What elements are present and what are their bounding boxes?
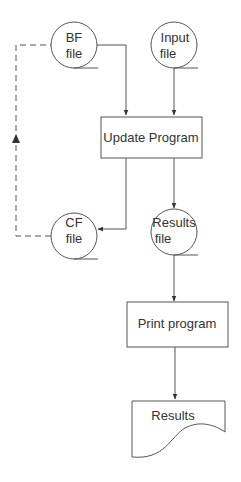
node-results-file: Results file: [151, 209, 198, 255]
edge-bf-to-update: [97, 45, 126, 115]
node-input-file: Input file: [151, 22, 198, 68]
node-print-program-label: Print program: [138, 316, 217, 331]
node-update-program: Update Program: [101, 117, 202, 158]
node-bf-file-line2: file: [66, 46, 83, 61]
flowchart-canvas: BF file Input file Update Program CF fil…: [0, 0, 241, 482]
node-results-file-line1: Results: [152, 215, 196, 230]
node-update-program-label: Update Program: [103, 130, 198, 145]
edge-cf-to-bf-dashed: [12, 45, 51, 236]
node-results-document: Results: [132, 401, 225, 457]
node-print-program: Print program: [127, 302, 228, 347]
node-cf-file-line1: CF: [65, 215, 82, 230]
node-bf-file-line1: BF: [66, 30, 83, 45]
node-results-file-line2: file: [155, 231, 172, 246]
node-results-document-label: Results: [151, 408, 195, 423]
edge-update-to-cf: [98, 158, 126, 229]
node-cf-file-line2: file: [66, 231, 83, 246]
node-input-file-line2: file: [160, 46, 177, 61]
arrow-up-icon: [12, 134, 20, 143]
node-cf-file: CF file: [51, 213, 98, 259]
node-input-file-line1: Input: [161, 30, 190, 45]
node-bf-file: BF file: [51, 22, 98, 68]
